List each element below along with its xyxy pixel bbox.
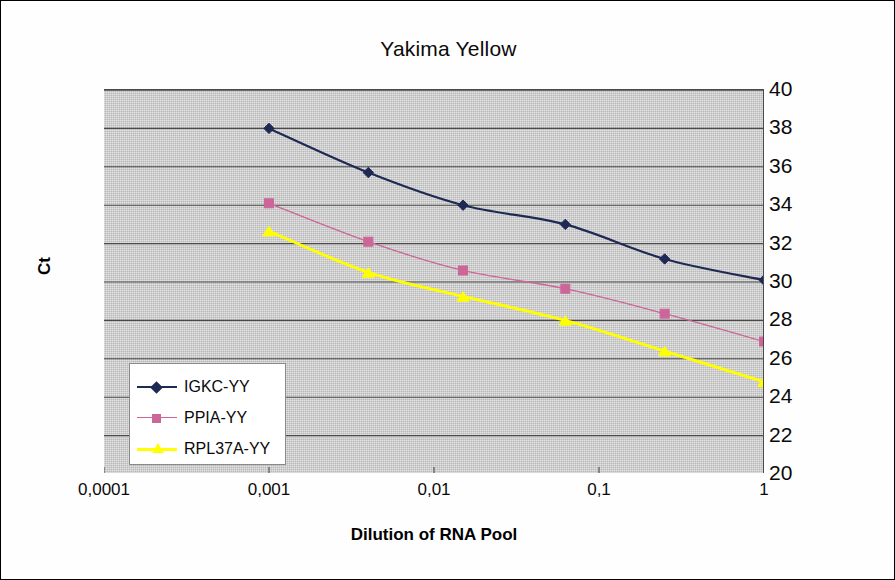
legend-diamond-icon [137,381,177,393]
x-axis-tick-label: 1 [704,480,824,500]
chart-title: Yakima Yellow [1,37,895,61]
series-line [269,203,764,341]
x-axis-tick-label: 0,01 [374,480,494,500]
x-axis-tick-label: 0,001 [209,480,329,500]
y-axis-tick-label: 36 [769,155,829,176]
legend-square-icon [137,412,177,424]
legend-item-label: IGKC-YY [184,378,250,396]
legend-item-label: RPL37A-YY [184,440,270,458]
y-axis-tick-label: 38 [769,116,829,137]
legend-item[interactable]: RPL37A-YY [130,433,285,464]
y-axis-tick-label: 22 [769,424,829,445]
legend-item[interactable]: PPIA-YY [130,402,285,433]
y-axis-title: Ct [35,236,55,296]
legend-item-label: PPIA-YY [184,409,247,427]
legend-triangle-icon [137,443,177,455]
y-axis-tick-label: 28 [769,308,829,329]
series-line [269,128,764,280]
legend-item[interactable]: IGKC-YY [130,371,285,402]
chart-frame: Yakima Yellow 4038363432302826242220 0,0… [0,0,895,580]
y-axis-tick-label: 26 [769,347,829,368]
x-axis-title: Dilution of RNA Pool [104,525,764,545]
x-axis-tick-label: 0,1 [539,480,659,500]
y-axis-tick-label: 24 [769,385,829,406]
y-axis-tick-label: 34 [769,193,829,214]
series-line [269,231,764,382]
y-axis-tick-label: 30 [769,270,829,291]
y-axis-tick-label: 32 [769,232,829,253]
y-axis-tick-label: 40 [769,78,829,99]
x-axis-tick-label: 0,0001 [44,480,164,500]
chart-legend: IGKC-YYPPIA-YYRPL37A-YY [129,363,286,465]
